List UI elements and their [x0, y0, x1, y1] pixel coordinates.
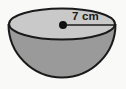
hemisphere-figure: 7 cm [0, 0, 126, 89]
radius-measurement-label: 7 cm [72, 10, 99, 23]
center-point-dot [59, 21, 67, 29]
hemisphere-illustration [0, 0, 126, 89]
